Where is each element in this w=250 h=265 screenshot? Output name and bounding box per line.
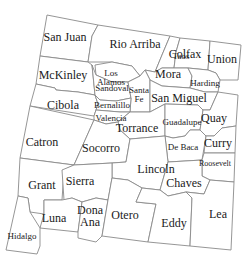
county-label-mora: Mora xyxy=(155,68,181,80)
county-label-de-baca: De Baca xyxy=(168,143,199,152)
county-label-luna: Luna xyxy=(42,212,67,224)
county-label-eddy: Eddy xyxy=(161,217,186,229)
county-label-san-juan: San Juan xyxy=(44,31,87,43)
county-label-sierra: Sierra xyxy=(66,175,95,187)
county-label-socorro: Socorro xyxy=(82,142,120,154)
county-label-union: Union xyxy=(207,53,237,65)
county-label-guadalupe: Guadalupe xyxy=(163,118,202,127)
county-label-mckinley: McKinley xyxy=(39,69,88,81)
county-label-san-miguel: San Miguel xyxy=(151,92,207,104)
county-label-dona-ana: DonaAna xyxy=(77,204,103,228)
county-label-chaves: Chaves xyxy=(166,177,201,189)
county-label-torrance: Torrance xyxy=(116,122,158,134)
county-label-cibola: Cibola xyxy=(47,99,79,111)
county-label-catron: Catron xyxy=(26,136,59,148)
county-label-rio-arriba: Rio Arriba xyxy=(110,38,161,50)
county-label-hidalgo: Hidalgo xyxy=(8,232,37,241)
county-label-harding: Harding xyxy=(190,79,220,88)
county-label-lincoln: Lincoln xyxy=(137,163,174,175)
county-label-sandoval: Sandoval xyxy=(95,84,129,93)
county-label-otero: Otero xyxy=(111,209,138,221)
county-label-colfax: Colfax xyxy=(169,48,202,60)
county-label-santa-fe: SantaFe xyxy=(129,86,149,104)
county-label-roosevelt: Roosevelt xyxy=(199,160,231,168)
county-label-grant: Grant xyxy=(28,179,55,191)
county-label-curry: Curry xyxy=(204,137,232,149)
county-label-quay: Quay xyxy=(201,112,227,124)
county-label-bernalillo: Bernalillo xyxy=(94,101,130,110)
county-label-lea: Lea xyxy=(209,208,227,220)
